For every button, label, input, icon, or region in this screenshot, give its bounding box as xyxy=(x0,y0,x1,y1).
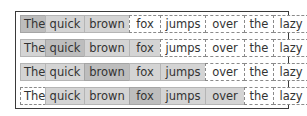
token-quick: quick xyxy=(45,15,85,33)
token-over: over xyxy=(205,15,245,33)
token-the-2: the xyxy=(244,63,274,81)
token-fox: fox xyxy=(129,39,161,57)
token-brown: brown xyxy=(84,15,130,33)
token-the-2: the xyxy=(244,39,274,57)
window-row-1: Thequickbrownfoxjumpsoverthelazydog xyxy=(20,15,307,33)
window-row-3: Thequickbrownfoxjumpsoverthelazydog xyxy=(20,63,307,81)
token-the: The xyxy=(20,63,46,81)
token-quick: quick xyxy=(45,63,85,81)
token-jumps: jumps xyxy=(160,63,206,81)
token-quick: quick xyxy=(45,39,85,57)
token-over: over xyxy=(205,87,245,105)
token-fox: fox xyxy=(129,15,161,33)
token-lazy: lazy xyxy=(273,39,307,57)
diagram-frame: Thequickbrownfoxjumpsoverthelazydog Theq… xyxy=(15,11,289,109)
token-brown: brown xyxy=(84,63,130,81)
window-row-4: Thequickbrownfoxjumpsoverthelazydog xyxy=(20,87,307,105)
token-the: The xyxy=(20,87,46,105)
token-jumps: jumps xyxy=(160,87,206,105)
token-the-2: the xyxy=(244,15,274,33)
token-fox: fox xyxy=(129,87,161,105)
token-lazy: lazy xyxy=(273,63,307,81)
token-lazy: lazy xyxy=(273,87,307,105)
token-the: The xyxy=(20,15,46,33)
token-over: over xyxy=(205,63,245,81)
token-brown: brown xyxy=(84,39,130,57)
token-brown: brown xyxy=(84,87,130,105)
token-quick: quick xyxy=(45,87,85,105)
window-row-2: Thequickbrownfoxjumpsoverthelazydog xyxy=(20,39,307,57)
token-the: The xyxy=(20,39,46,57)
token-jumps: jumps xyxy=(160,15,206,33)
token-lazy: lazy xyxy=(273,15,307,33)
token-over: over xyxy=(205,39,245,57)
token-the-2: the xyxy=(244,87,274,105)
token-fox: fox xyxy=(129,63,161,81)
token-jumps: jumps xyxy=(160,39,206,57)
